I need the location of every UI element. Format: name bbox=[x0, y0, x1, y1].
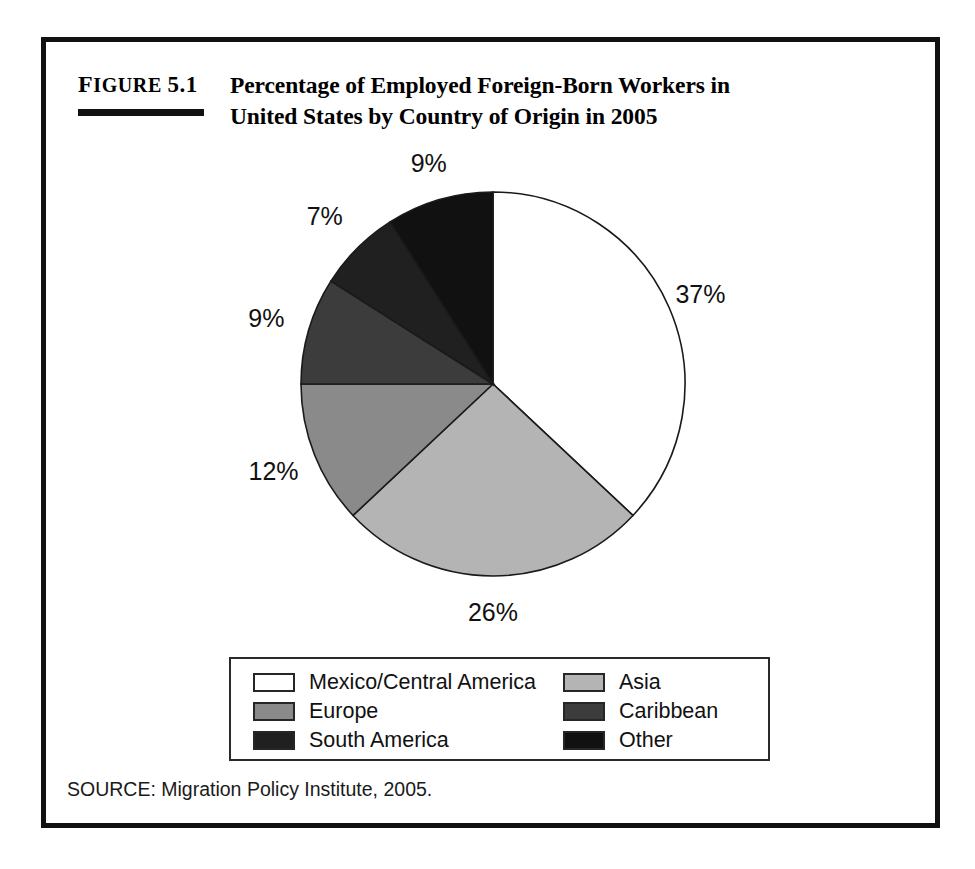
pie-data-label-south-america: 7% bbox=[306, 202, 342, 230]
legend-swatch-south-america bbox=[253, 731, 295, 750]
legend-label-europe: Europe bbox=[309, 701, 378, 723]
figure-label-column: FIGURE 5.1 bbox=[78, 70, 230, 116]
legend-swatch-asia bbox=[563, 673, 605, 692]
legend-item-other[interactable]: Other bbox=[563, 730, 768, 752]
pie-data-label-caribbean: 9% bbox=[248, 304, 284, 332]
page-title: Percentage of Employed Foreign-Born Work… bbox=[230, 70, 730, 132]
legend-item-europe[interactable]: Europe bbox=[253, 701, 563, 723]
figure-title-line-1: Percentage of Employed Foreign-Born Work… bbox=[230, 70, 730, 101]
legend-label-other: Other bbox=[619, 730, 673, 752]
pie-slices-group bbox=[301, 192, 685, 576]
legend-label-south-america: South America bbox=[309, 730, 449, 752]
legend-item-mexico-central-america[interactable]: Mexico/Central America bbox=[253, 672, 563, 694]
pie-data-label-other: 9% bbox=[410, 152, 446, 177]
figure-frame: FIGURE 5.1 Percentage of Employed Foreig… bbox=[41, 37, 940, 828]
pie-data-label-mexico-central-america: 37% bbox=[675, 280, 725, 308]
figure-label: FIGURE 5.1 bbox=[78, 72, 230, 96]
legend-swatch-other bbox=[563, 731, 605, 750]
legend-grid: Mexico/Central America Asia Europe Carib… bbox=[231, 668, 768, 755]
chart-legend: Mexico/Central America Asia Europe Carib… bbox=[229, 657, 770, 761]
pie-data-label-asia: 26% bbox=[467, 598, 517, 626]
figure-number: 5.1 bbox=[167, 72, 197, 97]
legend-swatch-mexico-central-america bbox=[253, 673, 295, 692]
legend-item-south-america[interactable]: South America bbox=[253, 730, 563, 752]
legend-item-caribbean[interactable]: Caribbean bbox=[563, 701, 768, 723]
legend-label-asia: Asia bbox=[619, 672, 661, 694]
figure-rule bbox=[78, 109, 204, 116]
pie-chart-region: 37%26%12%9%7%9% bbox=[46, 152, 935, 652]
figure-label-first-letter: F bbox=[78, 71, 93, 97]
pie-data-label-europe: 12% bbox=[248, 457, 298, 485]
figure-header: FIGURE 5.1 Percentage of Employed Foreig… bbox=[78, 70, 898, 132]
legend-label-mexico-central-america: Mexico/Central America bbox=[309, 672, 536, 694]
figure-label-prefix-rest: IGURE bbox=[93, 74, 162, 96]
pie-chart: 37%26%12%9%7%9% bbox=[61, 152, 921, 652]
legend-swatch-caribbean bbox=[563, 702, 605, 721]
legend-label-caribbean: Caribbean bbox=[619, 701, 718, 723]
source-note: SOURCE: Migration Policy Institute, 2005… bbox=[67, 778, 432, 801]
legend-item-asia[interactable]: Asia bbox=[563, 672, 768, 694]
figure-title-line-2: United States by Country of Origin in 20… bbox=[230, 101, 730, 132]
legend-swatch-europe bbox=[253, 702, 295, 721]
